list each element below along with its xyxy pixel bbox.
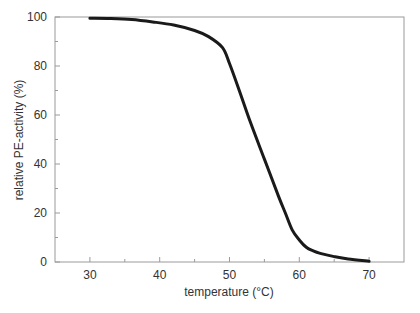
y-tick-label: 0: [40, 255, 47, 269]
x-tick-label: 50: [223, 268, 237, 282]
x-axis: 3040506070: [83, 257, 376, 282]
chart: 020406080100 3040506070 temperature (°C)…: [0, 0, 420, 313]
x-tick-label: 30: [83, 268, 97, 282]
x-tick-label: 60: [293, 268, 307, 282]
y-tick-label: 80: [34, 59, 48, 73]
activity-curve: [90, 18, 369, 261]
y-tick-label: 60: [34, 108, 48, 122]
y-tick-label: 40: [34, 157, 48, 171]
plot-area: [55, 17, 404, 262]
x-tick-label: 40: [153, 268, 167, 282]
x-axis-label: temperature (°C): [184, 285, 274, 299]
y-axis-label: relative PE-activity (%): [12, 80, 26, 201]
x-tick-label: 70: [362, 268, 376, 282]
y-tick-label: 20: [34, 206, 48, 220]
y-tick-label: 100: [27, 10, 47, 24]
